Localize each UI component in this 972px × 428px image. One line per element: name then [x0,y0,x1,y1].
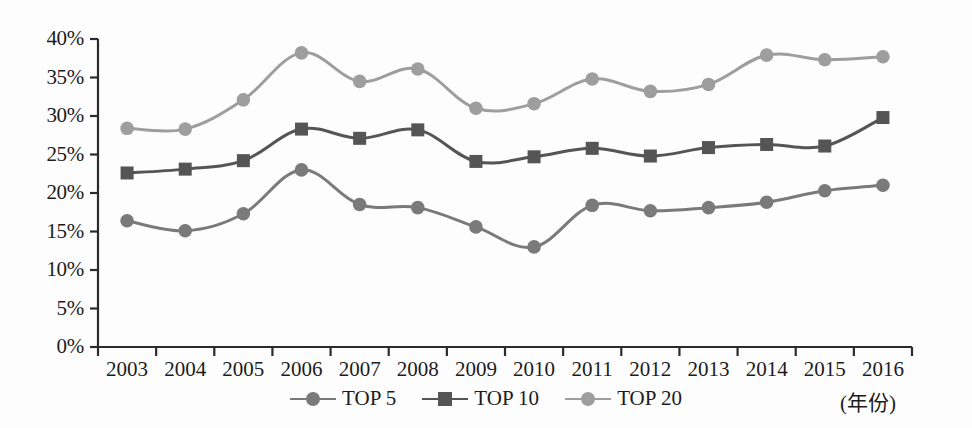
data-point-marker [818,184,832,198]
legend-label: TOP 20 [617,386,682,411]
series-line-top-20 [127,53,883,132]
data-point-marker [527,97,541,111]
data-point-marker [353,132,366,145]
y-axis-tick-label: 5% [0,296,84,321]
data-point-marker [237,207,251,221]
legend-square-marker-icon [438,392,452,406]
chart-legend: TOP 5TOP 10TOP 20 [0,386,972,411]
x-axis-tick-label: 2011 [559,357,625,382]
legend-swatch-icon [422,391,468,407]
y-axis-tick-label: 40% [0,26,84,51]
legend-item-top-5[interactable]: TOP 5 [290,386,396,411]
legend-label: TOP 5 [342,386,396,411]
data-point-marker [760,195,774,209]
data-point-marker [818,140,831,153]
x-axis-tick-label: 2012 [617,357,683,382]
data-point-marker [760,48,774,62]
series-layer [120,46,889,254]
data-point-marker [469,155,482,168]
y-axis-tick-label: 30% [0,103,84,128]
x-axis-tick-label: 2005 [210,357,276,382]
x-axis-tick-label: 2013 [676,357,742,382]
data-point-marker [411,123,424,136]
data-point-marker [469,220,483,234]
data-point-marker [237,154,250,167]
data-point-marker [702,201,716,215]
legend-item-top-10[interactable]: TOP 10 [422,386,539,411]
data-point-marker [178,122,192,136]
y-axis-tick-label: 10% [0,257,84,282]
x-axis-tick-label: 2008 [385,357,451,382]
data-point-marker [527,240,541,254]
data-point-marker [586,142,599,155]
data-point-marker [353,198,367,212]
y-axis-tick-label: 35% [0,65,84,90]
legend-label: TOP 10 [474,386,539,411]
legend-circle-marker-icon [306,392,320,406]
data-point-marker [702,78,716,92]
data-point-marker [237,93,251,107]
x-axis-tick-label: 2003 [94,357,160,382]
data-point-marker [411,201,425,215]
data-point-marker [179,163,192,176]
data-point-marker [120,214,134,228]
data-point-marker [353,75,367,89]
x-axis-tick-label: 2007 [327,357,393,382]
y-axis-tick-label: 20% [0,180,84,205]
data-point-marker [528,150,541,163]
legend-swatch-icon [290,391,336,407]
x-axis-tick-label: 2010 [501,357,567,382]
line-chart: 0%5%10%15%20%25%30%35%40% 20032004200520… [0,0,972,428]
data-point-marker [876,179,890,193]
y-axis-tick-label: 25% [0,142,84,167]
x-axis-tick-label: 2004 [152,357,218,382]
x-axis-tick-label: 2006 [269,357,335,382]
data-point-marker [295,163,309,177]
x-axis-tick-label: 2016 [850,357,916,382]
x-axis-tick-label: 2015 [792,357,858,382]
data-point-marker [585,199,599,213]
y-axis-tick-label: 0% [0,334,84,359]
data-point-marker [120,122,134,136]
data-point-marker [876,111,889,124]
data-point-marker [295,123,308,136]
data-point-marker [702,141,715,154]
data-point-marker [760,138,773,151]
x-axis-tick-label: 2009 [443,357,509,382]
y-axis-tick-label: 15% [0,219,84,244]
data-point-marker [644,150,657,163]
data-point-marker [469,102,483,116]
data-point-marker [585,72,599,86]
legend-circle-marker-icon [581,392,595,406]
data-point-marker [295,46,309,60]
legend-swatch-icon [565,391,611,407]
data-point-marker [411,62,425,76]
x-axis-tick-label: 2014 [734,357,800,382]
data-point-marker [178,224,192,238]
data-point-marker [876,50,890,64]
data-point-marker [818,53,832,67]
data-point-marker [121,166,134,179]
data-point-marker [644,85,658,99]
data-point-marker [644,204,658,218]
legend-item-top-20[interactable]: TOP 20 [565,386,682,411]
